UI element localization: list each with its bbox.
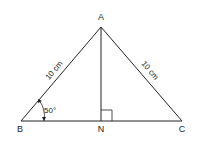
arc-arrow-bottom-icon bbox=[42, 117, 46, 121]
side-ac-length: 10 cm bbox=[139, 59, 160, 82]
arc-arrow-top-icon bbox=[38, 99, 42, 103]
vertex-label-n: N bbox=[98, 124, 105, 134]
side-ab-length: 10 cm bbox=[44, 59, 65, 82]
vertex-label-b: B bbox=[17, 124, 23, 134]
triangle-diagram: A B N C 10 cm 10 cm 50° bbox=[0, 0, 200, 143]
side-ab bbox=[21, 27, 101, 121]
vertex-label-c: C bbox=[179, 124, 186, 134]
vertex-label-a: A bbox=[98, 12, 104, 22]
right-angle-mark bbox=[101, 110, 112, 121]
side-ac bbox=[101, 27, 182, 121]
angle-b-measure: 50° bbox=[44, 106, 56, 115]
